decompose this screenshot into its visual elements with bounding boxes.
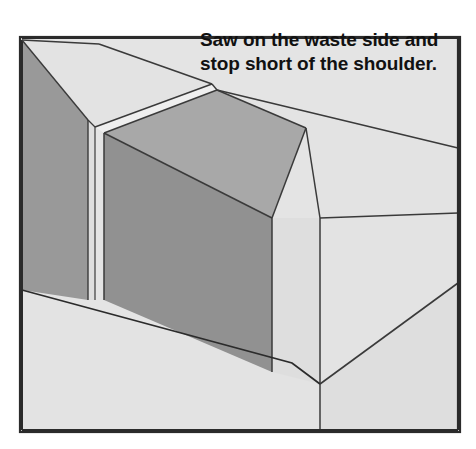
caption-line-1: Saw on the waste side and — [200, 29, 438, 50]
caption-line-2: stop short of the shoulder. — [200, 53, 437, 74]
surface-waste-strip-front — [88, 120, 95, 300]
tenon-sawing-diagram: Saw on the waste side and stop short of … — [0, 0, 476, 449]
illustration-panel: Saw on the waste side and stop short of … — [0, 0, 476, 449]
